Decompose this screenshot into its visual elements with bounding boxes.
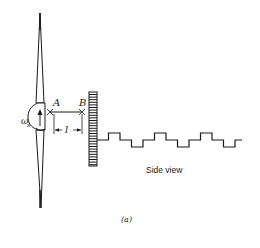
dim-arrow-right-icon <box>77 128 81 131</box>
grating-frame <box>89 92 97 166</box>
point-a-label: A <box>52 97 60 108</box>
grating <box>89 92 97 166</box>
propeller-hub <box>28 103 45 130</box>
side-view-label: Side view <box>146 165 183 175</box>
propeller-grating-diagram: ω s A B l Side view (a) <box>0 0 260 248</box>
point-b-label: B <box>78 97 86 108</box>
figure-caption: (a) <box>121 215 132 224</box>
output-waveform <box>97 133 242 147</box>
angular-speed-subscript: s <box>27 121 30 128</box>
dim-arrow-left-icon <box>55 128 59 131</box>
distance-label: l <box>65 124 68 135</box>
